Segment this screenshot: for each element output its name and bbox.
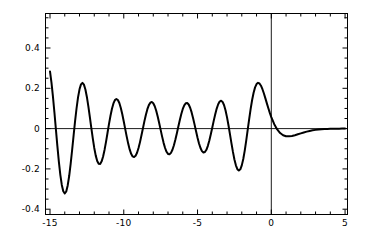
chart-canvas — [0, 0, 367, 245]
y-tick-label-2: 0 — [18, 124, 40, 134]
y-tick-label-1: 0.2 — [18, 83, 40, 93]
y-tick-label-3: -0.2 — [12, 164, 40, 174]
x-tick-label-1: -10 — [116, 218, 131, 228]
y-tick-label-0: 0.4 — [18, 43, 40, 53]
x-tick-label-2: -5 — [193, 218, 202, 228]
y-tick-label-4: -0.4 — [12, 204, 40, 214]
chart-container: -15 -10 -5 0 5 0.4 0.2 0 -0.2 -0.4 — [0, 0, 367, 245]
x-tick-label-3: 0 — [268, 218, 274, 228]
x-tick-label-4: 5 — [342, 218, 348, 228]
x-tick-label-0: -15 — [42, 218, 57, 228]
